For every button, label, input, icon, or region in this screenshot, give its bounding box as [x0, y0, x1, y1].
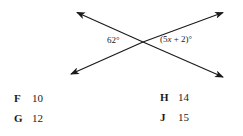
answer-choice-g[interactable]: G 12: [14, 112, 43, 124]
answer-choices: F 10 G 12 H 14 J 15: [0, 88, 243, 136]
line-upper-left-to-lower-right-segment-b: [143, 42, 223, 77]
answer-choice-g-key: G: [14, 112, 25, 124]
answer-choice-h-value: 14: [178, 91, 189, 103]
answer-choice-j-value: 15: [178, 111, 189, 123]
answer-choice-g-value: 12: [32, 112, 43, 124]
answer-choice-f-key: F: [14, 92, 25, 104]
geometry-question-figure: 62° (5x + 2)° F 10 G 12 H 14 J 15: [0, 0, 243, 136]
angle-expression-suffix: + 2)°: [172, 34, 193, 44]
answer-choice-j[interactable]: J 15: [160, 111, 189, 123]
angle-expression-prefix: (5: [160, 34, 168, 44]
angle-label-left: 62°: [107, 36, 120, 45]
answer-choice-j-key: J: [160, 111, 171, 123]
answer-choice-f-value: 10: [32, 92, 43, 104]
answer-choice-h[interactable]: H 14: [160, 91, 189, 103]
intersecting-lines-diagram: [0, 0, 243, 90]
answer-choice-h-key: H: [160, 91, 171, 103]
answer-choice-f[interactable]: F 10: [14, 92, 43, 104]
line-lower-left-to-upper-right-segment-a: [71, 42, 143, 74]
angle-label-right: (5x + 2)°: [160, 35, 192, 44]
